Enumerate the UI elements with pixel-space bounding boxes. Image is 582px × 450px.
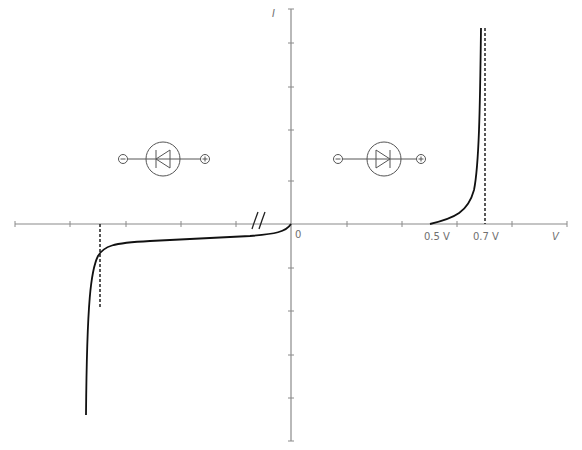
reverse-bias-diode-symbol	[119, 142, 210, 176]
forward-bias-diode-symbol	[334, 142, 426, 176]
reverse-current-curve	[86, 224, 291, 415]
threshold-low-label: 0.5 V	[424, 231, 450, 242]
axis-break-mark	[252, 212, 265, 229]
origin-label: 0	[295, 229, 301, 240]
forward-current-curve	[430, 28, 481, 224]
x-axis-label: V	[552, 231, 559, 242]
y-axis-label: I	[272, 8, 275, 19]
iv-diagram	[0, 0, 582, 450]
threshold-high-label: 0.7 V	[473, 231, 499, 242]
